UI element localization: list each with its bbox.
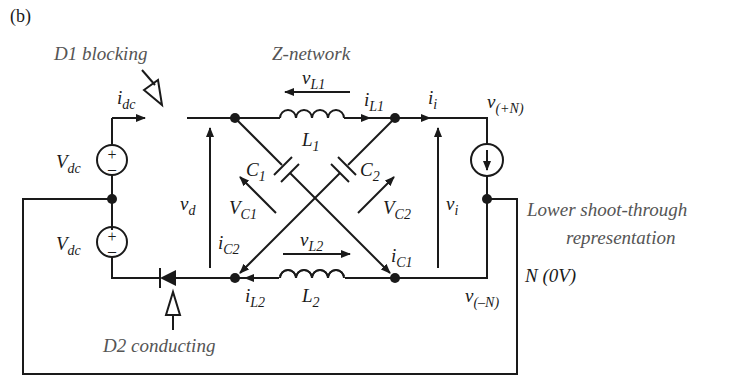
junction-dot [107, 194, 117, 204]
z-network-label: Z-network [272, 43, 351, 64]
node-bottom-left [230, 273, 240, 283]
vl2-label: vL2 [300, 229, 323, 254]
vc2-label: VC2 [383, 197, 411, 222]
ic1-label: iC1 [391, 245, 413, 270]
wire-vdc2-bottom [112, 257, 160, 278]
c2-wire-a [348, 118, 395, 165]
d2-pointer-arrow [166, 292, 180, 330]
vdc1-source: + – [97, 145, 127, 177]
n-0v-label: N (0V) [524, 265, 576, 287]
il2-label: iL2 [245, 285, 265, 310]
current-source [471, 144, 503, 176]
z-source-circuit-diagram: (b) + – + – [0, 0, 745, 391]
ii-label: ii [428, 87, 437, 112]
ic1-arrow [290, 173, 390, 273]
vc1-label: VC1 [229, 197, 257, 222]
representation-label: representation [566, 227, 675, 248]
lower-shoot-through-label: Lower shoot-through [526, 199, 687, 220]
vdc1-label: Vdc [56, 151, 82, 176]
c2-label: C2 [360, 159, 380, 184]
c1-wire-a [235, 118, 282, 165]
l1-inductor [280, 110, 344, 118]
node-bottom-right [390, 273, 400, 283]
l2-label: L2 [301, 285, 320, 310]
d2-conducting-label: D2 conducting [102, 335, 215, 356]
v-minus-n-label: v(–N) [465, 285, 499, 311]
figure-label: (b) [10, 6, 31, 27]
vi-label: vi [446, 193, 458, 218]
vl1-label: vL1 [302, 67, 325, 92]
vdc2-source: + – [97, 227, 127, 259]
svg-text:–: – [107, 160, 117, 177]
ic2-label: iC2 [218, 232, 240, 257]
vd-label: vd [180, 193, 196, 218]
outer-loop-wire [23, 199, 517, 374]
ic2-arrow [240, 173, 340, 273]
vdc2-label: Vdc [56, 233, 82, 258]
c1-label: C1 [246, 159, 266, 184]
svg-text:–: – [107, 242, 117, 259]
junction-dot [482, 194, 492, 204]
l1-label: L1 [301, 129, 320, 154]
d1-blocking-label: D1 blocking [53, 43, 147, 64]
d2-diode [160, 268, 176, 288]
il1-label: iL1 [364, 89, 384, 114]
d1-pointer-arrow [142, 70, 162, 105]
idc-label: idc [117, 87, 136, 112]
v-plus-n-label: v(+N) [487, 91, 524, 117]
